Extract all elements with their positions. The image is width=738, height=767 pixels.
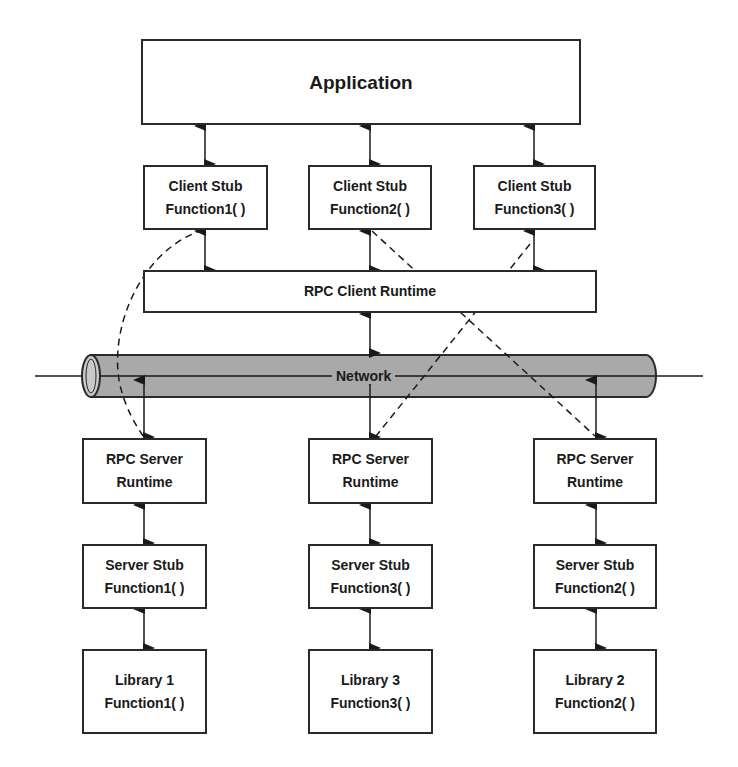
client-stub-title: Client Stub [169,175,243,198]
rpc-server-title: RPC Server [106,448,183,471]
server-stub-box-1: Server Stub Function1( ) [82,544,207,609]
network-label: Network [332,368,395,384]
library-box-2: Library 3 Function3( ) [308,649,433,734]
rpc-client-runtime-label: RPC Client Runtime [304,280,436,303]
library-title: Library 1 [115,669,174,692]
rpc-server-subtitle: Runtime [117,471,173,494]
rpc-server-subtitle: Runtime [343,471,399,494]
rpc-server-title: RPC Server [556,448,633,471]
client-stub-function: Function2( ) [330,198,410,221]
library-title: Library 3 [341,669,400,692]
server-stub-function: Function2( ) [555,577,635,600]
library-box-3: Library 2 Function2( ) [533,649,657,734]
client-stub-box-2: Client Stub Function2( ) [308,165,432,230]
library-function: Function1( ) [104,692,184,715]
client-stub-title: Client Stub [498,175,572,198]
client-stub-function: Function1( ) [165,198,245,221]
application-box: Application [141,39,581,125]
client-stub-function: Function3( ) [494,198,574,221]
rpc-server-runtime-box-1: RPC Server Runtime [82,438,207,504]
library-box-1: Library 1 Function1( ) [82,649,207,734]
server-stub-box-2: Server Stub Function3( ) [308,544,433,609]
server-stub-function: Function1( ) [104,577,184,600]
library-title: Library 2 [565,669,624,692]
server-stub-box-3: Server Stub Function2( ) [533,544,657,609]
client-stub-title: Client Stub [333,175,407,198]
dashed-route-function1 [118,230,203,436]
server-stub-title: Server Stub [556,554,635,577]
server-stub-title: Server Stub [105,554,184,577]
client-stub-box-3: Client Stub Function3( ) [473,165,596,230]
rpc-server-subtitle: Runtime [567,471,623,494]
client-stub-box-1: Client Stub Function1( ) [143,165,268,230]
server-stub-title: Server Stub [331,554,410,577]
rpc-server-runtime-box-2: RPC Server Runtime [308,438,433,504]
library-function: Function2( ) [555,692,635,715]
rpc-server-runtime-box-3: RPC Server Runtime [533,438,657,504]
library-function: Function3( ) [330,692,410,715]
dashed-route-function2 [372,231,595,436]
application-label: Application [309,71,412,94]
rpc-server-title: RPC Server [332,448,409,471]
rpc-client-runtime-box: RPC Client Runtime [143,270,597,313]
server-stub-function: Function3( ) [330,577,410,600]
